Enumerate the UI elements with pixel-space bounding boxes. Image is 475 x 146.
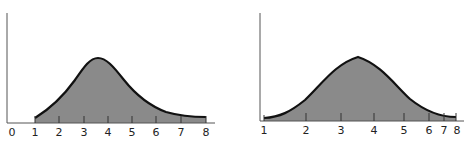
tick-label: 5 (129, 126, 136, 139)
tick-label: 6 (153, 126, 160, 139)
tick-label: 1 (32, 126, 39, 139)
left-chart-area (35, 58, 206, 123)
tick-label: 4 (105, 126, 112, 139)
tick-label: 2 (56, 126, 63, 139)
charts-canvas: 0 1 2 3 4 5 6 7 8 1 2 3 (0, 0, 475, 146)
tick-label: 3 (81, 126, 88, 139)
tick-label: 8 (454, 124, 461, 137)
tick-label: 0 (9, 126, 16, 139)
tick-label: 8 (203, 126, 210, 139)
tick-label: 2 (303, 124, 310, 137)
tick-label: 5 (401, 124, 408, 137)
tick-label: 3 (338, 124, 345, 137)
right-x-tick-labels: 1 2 3 4 5 6 7 8 (261, 124, 461, 137)
left-x-tick-labels: 0 1 2 3 4 5 6 7 8 (9, 126, 210, 139)
tick-label: 1 (261, 124, 268, 137)
left-chart: 0 1 2 3 4 5 6 7 8 (7, 13, 215, 139)
right-chart: 1 2 3 4 5 6 7 8 (260, 13, 464, 137)
tick-label: 7 (441, 124, 448, 137)
tick-label: 4 (371, 124, 378, 137)
tick-label: 7 (178, 126, 185, 139)
right-chart-area (264, 57, 456, 121)
tick-label: 6 (426, 124, 433, 137)
